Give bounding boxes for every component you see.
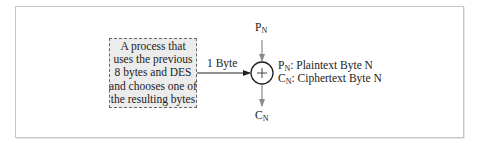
- label-sub: N: [263, 114, 269, 123]
- xor-icon: [251, 62, 273, 84]
- legend-ciphertext: CN: Ciphertext Byte N: [278, 72, 382, 84]
- legend-description: : Plaintext Byte N: [290, 59, 373, 71]
- byte-label: 1 Byte: [207, 57, 237, 69]
- label-main: C: [255, 109, 263, 121]
- plaintext-input-label: PN: [255, 21, 267, 33]
- diagram-connectors: [0, 0, 480, 147]
- label-sub: N: [261, 26, 267, 35]
- ciphertext-output-label: CN: [255, 109, 268, 121]
- legend-symbol: C: [278, 72, 286, 84]
- legend-description: : Ciphertext Byte N: [291, 72, 381, 84]
- legend-plaintext: PN: Plaintext Byte N: [278, 59, 373, 71]
